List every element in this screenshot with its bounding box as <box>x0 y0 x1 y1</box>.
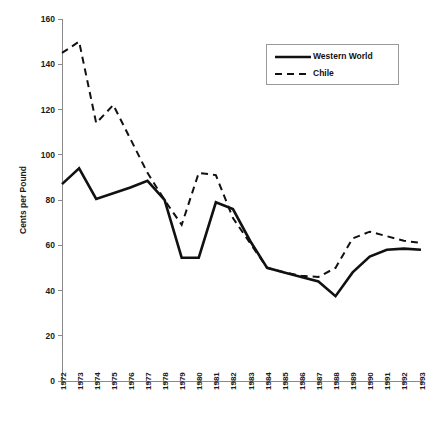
x-tick-label: 1993 <box>418 372 427 390</box>
x-tick-label: 1991 <box>383 372 392 390</box>
y-tick-label: 120 <box>41 105 55 115</box>
y-tick-label: 20 <box>46 331 56 341</box>
x-tick-label: 1975 <box>110 372 119 390</box>
y-tick-label: 160 <box>41 14 55 24</box>
y-tick-label: 100 <box>41 150 55 160</box>
chart-legend: Western WorldChile <box>266 44 398 84</box>
x-tick-label: 1989 <box>349 372 358 390</box>
y-tick-label: 40 <box>46 286 56 296</box>
line-chart: 020406080100120140160 197219731974197519… <box>0 0 436 424</box>
y-axis-title: Cents per Pound <box>18 166 28 234</box>
x-tick-label: 1988 <box>332 372 341 390</box>
y-tick-label: 80 <box>46 195 56 205</box>
x-tick-label: 1977 <box>144 372 153 390</box>
x-tick-label: 1972 <box>59 372 68 390</box>
x-tick-label: 1980 <box>195 372 204 390</box>
chart-canvas: 020406080100120140160 197219731974197519… <box>0 0 436 424</box>
y-axis-ticks: 020406080100120140160 <box>41 14 62 386</box>
x-tick-label: 1985 <box>281 372 290 390</box>
x-tick-label: 1979 <box>178 372 187 390</box>
legend-label-western-world: Western World <box>313 51 373 61</box>
x-tick-label: 1992 <box>400 372 409 390</box>
legend-label-chile: Chile <box>313 68 334 78</box>
x-tick-label: 1978 <box>161 372 170 390</box>
x-tick-label: 1990 <box>366 372 375 390</box>
x-tick-label: 1982 <box>229 372 238 390</box>
x-tick-label: 1984 <box>264 372 273 390</box>
y-tick-label: 140 <box>41 59 55 69</box>
x-tick-label: 1983 <box>247 372 256 390</box>
y-tick-label: 60 <box>46 240 56 250</box>
x-tick-label: 1973 <box>76 372 85 390</box>
x-tick-label: 1976 <box>127 372 136 390</box>
x-tick-label: 1981 <box>212 372 221 390</box>
x-tick-label: 1986 <box>298 372 307 390</box>
x-tick-label: 1987 <box>315 372 324 390</box>
y-tick-label: 0 <box>50 376 55 386</box>
x-tick-label: 1974 <box>93 372 102 390</box>
